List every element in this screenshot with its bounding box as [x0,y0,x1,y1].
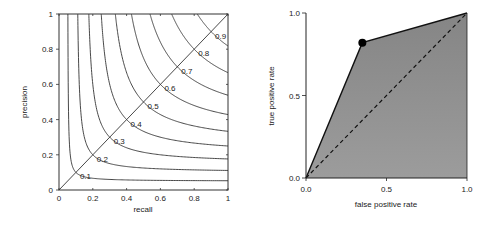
y-tick-label: 0.6 [42,80,54,89]
roc-plot: 0.00.51.0 0.00.51.0 false positive rate … [267,9,473,209]
contour-label: 0.1 [80,172,92,181]
x-tick-label: 1 [226,194,231,203]
contour-label: 0.3 [114,137,126,146]
x-tick-label: 1.0 [461,185,473,194]
contour-label: 0.5 [148,102,160,111]
x-axis-ticks: 0.00.51.0 [300,178,473,194]
contour-label: 0.9 [215,32,227,41]
x-tick-label: 0.0 [300,185,312,194]
y-tick-label: 1 [49,10,54,19]
x-tick-label: 0 [57,194,62,203]
contour-labels: 0.10.20.30.40.50.60.70.80.9 [80,32,227,182]
figure: 0.10.20.30.40.50.60.70.80.9 00.20.40.60.… [0,0,496,234]
x-tick-label: 0.6 [155,194,167,203]
f1-contour-plot: 0.10.20.30.40.50.60.70.80.9 00.20.40.60.… [20,10,231,214]
x-axis-label: false positive rate [355,200,418,209]
x-tick-label: 0.8 [189,194,201,203]
y-tick-label: 0.4 [42,116,54,125]
x-tick-label: 0.5 [381,185,393,194]
y-tick-label: 0.0 [289,174,301,183]
y-tick-label: 0.5 [289,92,301,101]
operating-point-marker [358,39,366,47]
y-tick-label: 0 [49,186,54,195]
contour-label: 0.6 [164,84,176,93]
y-tick-label: 1.0 [289,9,301,18]
x-tick-label: 0.4 [121,194,133,203]
y-axis-label: precision [20,86,29,118]
diagonal-line [59,14,228,190]
contour-label: 0.7 [181,67,193,76]
y-axis-label: true positive rate [267,66,276,126]
x-axis-label: recall [133,205,152,214]
contour-label: 0.2 [97,155,109,164]
y-axis-ticks: 0.00.51.0 [289,9,306,183]
y-tick-label: 0.2 [42,151,54,160]
x-tick-label: 0.2 [87,194,99,203]
contour-label: 0.4 [131,120,143,129]
contour-label: 0.8 [198,49,210,58]
y-tick-label: 0.8 [42,45,54,54]
